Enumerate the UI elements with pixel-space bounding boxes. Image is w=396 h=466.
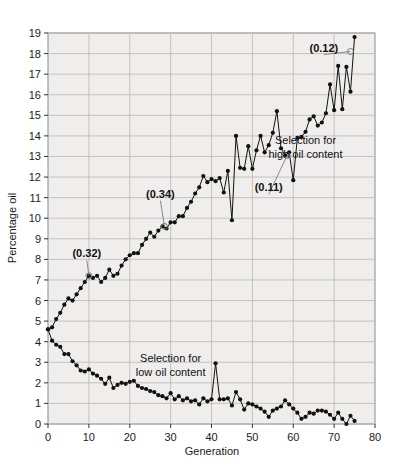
annotation-label: (0.32) [72, 247, 101, 259]
data-point [348, 414, 352, 418]
data-point [213, 179, 217, 183]
data-point [303, 415, 307, 419]
data-point [169, 220, 173, 224]
annotation-label: (0.34) [146, 188, 175, 200]
data-point [91, 371, 95, 375]
data-point [308, 411, 312, 415]
data-point [312, 412, 316, 416]
data-point [279, 404, 283, 408]
data-point [287, 402, 291, 406]
data-point [238, 397, 242, 401]
data-point [352, 35, 356, 39]
chart-canvas: 012345678910111213141516171819 010203040… [0, 0, 396, 466]
data-point [136, 251, 140, 255]
data-point [336, 64, 340, 68]
data-point [250, 167, 254, 171]
data-point [156, 393, 160, 397]
data-point [140, 386, 144, 390]
data-point [197, 402, 201, 406]
data-point [218, 176, 222, 180]
data-point [328, 413, 332, 417]
data-point [185, 396, 189, 400]
data-point [132, 251, 136, 255]
data-point [99, 377, 103, 381]
y-tick-label: 16 [29, 89, 41, 101]
data-point [124, 382, 128, 386]
data-point [79, 368, 83, 372]
y-tick-label: 1 [35, 397, 41, 409]
data-point [209, 397, 213, 401]
data-point [291, 406, 295, 410]
x-tick-label: 80 [369, 431, 381, 443]
data-point [58, 345, 62, 349]
data-point [340, 417, 344, 421]
data-point [156, 228, 160, 232]
data-point [103, 382, 107, 386]
data-point [267, 143, 271, 147]
data-point [312, 114, 316, 118]
data-point [320, 409, 324, 413]
data-point [177, 394, 181, 398]
data-point [189, 200, 193, 204]
y-tick-label: 0 [35, 418, 41, 430]
data-point [271, 409, 275, 413]
data-point [263, 410, 267, 414]
data-point [197, 185, 201, 189]
data-point [62, 303, 66, 307]
data-point [320, 120, 324, 124]
data-point [83, 369, 87, 373]
data-point [263, 150, 267, 154]
data-point [111, 386, 115, 390]
data-point [205, 399, 209, 403]
y-tick-label: 5 [35, 315, 41, 327]
data-point [185, 206, 189, 210]
data-point [115, 383, 119, 387]
data-point [83, 280, 87, 284]
data-point [160, 394, 164, 398]
data-point [267, 415, 271, 419]
x-tick-label: 40 [205, 431, 217, 443]
y-tick-label: 6 [35, 295, 41, 307]
data-point [189, 399, 193, 403]
data-point [144, 387, 148, 391]
y-tick-label: 11 [30, 192, 41, 204]
data-point [144, 237, 148, 241]
data-point [332, 108, 336, 112]
data-point [344, 65, 348, 69]
data-point [344, 422, 348, 426]
data-point [328, 82, 332, 86]
data-point [283, 398, 287, 402]
data-point [193, 398, 197, 402]
data-point [50, 325, 54, 329]
oil-percentage-chart: 012345678910111213141516171819 010203040… [0, 0, 396, 466]
data-point [152, 390, 156, 394]
data-point [299, 417, 303, 421]
data-point [226, 169, 230, 173]
data-point [324, 111, 328, 115]
data-point [230, 403, 234, 407]
data-point [95, 274, 99, 278]
data-point [95, 374, 99, 378]
data-point [66, 296, 70, 300]
data-point [70, 298, 74, 302]
data-point [136, 384, 140, 388]
y-tick-label: 13 [29, 150, 41, 162]
data-point [242, 167, 246, 171]
data-point [115, 272, 119, 276]
y-tick-label: 12 [29, 171, 41, 183]
data-point [201, 174, 205, 178]
data-point [352, 419, 356, 423]
series-label-line2: high oil content [269, 148, 343, 160]
data-point [258, 134, 262, 138]
data-point [177, 214, 181, 218]
y-tick-label: 18 [29, 48, 41, 60]
data-point [58, 311, 62, 315]
data-point [201, 396, 205, 400]
data-point [254, 148, 258, 152]
data-point [79, 286, 83, 290]
y-tick-label: 9 [35, 233, 41, 245]
data-point [103, 276, 107, 280]
data-point [99, 280, 103, 284]
data-point [46, 327, 50, 331]
data-point [70, 359, 74, 363]
